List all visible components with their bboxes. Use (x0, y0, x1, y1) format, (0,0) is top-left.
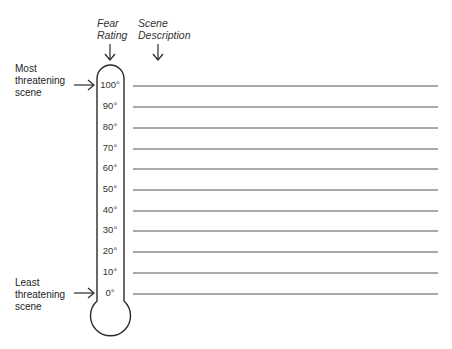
label-line: threatening (15, 75, 65, 87)
least-threatening-label: Least threatening scene (15, 277, 65, 313)
tick-70: 70° (97, 142, 123, 153)
tick-20: 20° (97, 245, 123, 256)
scene-description-header: Scene Description (138, 17, 191, 41)
tick-90: 90° (97, 100, 123, 111)
fear-rating-arrow-icon (105, 44, 115, 60)
label-line: scene (15, 301, 65, 313)
header-line: Fear (97, 17, 127, 29)
tick-80: 80° (97, 121, 123, 132)
least-threatening-arrow-icon (74, 288, 94, 298)
tick-40: 40° (97, 204, 123, 215)
header-line: Rating (97, 29, 127, 41)
thermometer-diagram (0, 0, 452, 349)
tick-10: 10° (97, 266, 123, 277)
scene-description-arrow-icon (153, 44, 163, 60)
tick-30: 30° (97, 224, 123, 235)
label-line: scene (15, 87, 65, 99)
header-line: Scene (138, 17, 191, 29)
tick-0: 0° (97, 287, 123, 298)
label-line: Most (15, 63, 65, 75)
scene-lines (133, 86, 438, 294)
header-line: Description (138, 29, 191, 41)
most-threatening-label: Most threatening scene (15, 63, 65, 99)
tick-100: 100° (97, 79, 123, 90)
label-line: threatening (15, 289, 65, 301)
tick-60: 60° (97, 162, 123, 173)
label-line: Least (15, 277, 65, 289)
tick-50: 50° (97, 183, 123, 194)
most-threatening-arrow-icon (74, 80, 94, 90)
fear-rating-header: Fear Rating (97, 17, 127, 41)
